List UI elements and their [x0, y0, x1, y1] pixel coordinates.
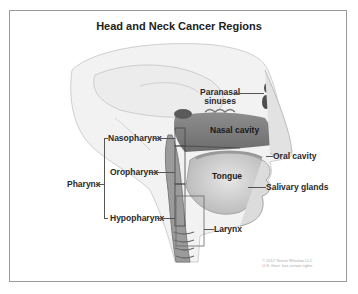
- pharynx-bracket-bottom: [104, 218, 108, 219]
- head-neck-anatomy-illustration: [0, 0, 358, 294]
- leader-oropharynx: [150, 172, 175, 173]
- leader-salivary-glands: [248, 187, 266, 188]
- label-paranasal-line2: sinuses: [200, 97, 240, 106]
- leader-nasopharynx: [154, 138, 175, 139]
- pharynx-bracket-vertical: [104, 138, 105, 218]
- label-paranasal-sinuses: Paranasal sinuses: [200, 88, 240, 107]
- pharynx-bracket-top: [104, 138, 108, 139]
- leader-oral-cavity: [266, 156, 273, 157]
- copyright-line2: U.S. Govt. has certain rights: [262, 264, 312, 269]
- label-oral-cavity: Oral cavity: [273, 152, 316, 161]
- copyright-notice: © 2012 Terese Winslow LLC U.S. Govt. has…: [262, 259, 312, 269]
- label-larynx: Larynx: [214, 225, 242, 234]
- leader-paranasal: [234, 93, 264, 94]
- leader-larynx: [204, 229, 214, 230]
- leader-hypopharynx: [157, 218, 175, 219]
- label-salivary-glands: Salivary glands: [266, 183, 328, 192]
- label-tongue: Tongue: [212, 172, 242, 181]
- leader-pharynx: [96, 184, 104, 185]
- label-nasal-cavity: Nasal cavity: [210, 126, 259, 135]
